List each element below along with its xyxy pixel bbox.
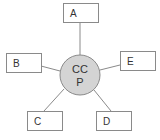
edge-hub-to-c	[44, 89, 64, 111]
edge-hub-to-d	[94, 90, 111, 111]
hub-spoke-diagram: CC P A B E C D	[0, 0, 160, 140]
node-c-box	[28, 112, 63, 131]
node-a-label: A	[70, 8, 77, 19]
node-a-box	[64, 4, 99, 23]
node-c-label: C	[34, 116, 41, 127]
node-a: A	[64, 4, 99, 23]
node-d: D	[97, 112, 132, 131]
node-d-box	[97, 112, 132, 131]
hub-label-line2: P	[76, 76, 83, 88]
node-b-box	[7, 54, 42, 73]
node-b-label: B	[13, 58, 20, 69]
node-e: E	[121, 52, 156, 71]
node-c: C	[28, 112, 63, 131]
hub-node: CC P	[60, 55, 100, 95]
hub-label-line1: CC	[72, 63, 88, 75]
edge-hub-to-e	[100, 65, 120, 70]
node-e-box	[121, 52, 156, 71]
hub-circle	[60, 55, 100, 95]
edge-hub-to-b	[41, 66, 60, 71]
node-e-label: E	[127, 56, 134, 67]
node-b: B	[7, 54, 42, 73]
node-d-label: D	[103, 116, 110, 127]
